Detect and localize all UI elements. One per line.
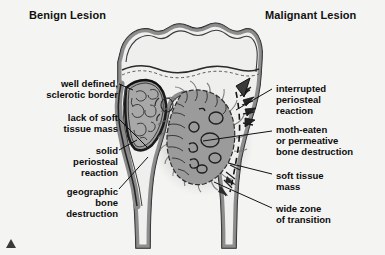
label-soft-tissue-mass: soft tissue mass bbox=[276, 170, 324, 192]
label-well-defined-sclerotic-border: well defined, sclerotic border bbox=[46, 78, 118, 100]
label-moth-eaten-bone-destruction: moth-eaten or permeative bone destructio… bbox=[276, 124, 353, 158]
label-solid-periosteal-reaction: solid periosteal reaction bbox=[73, 145, 118, 179]
label-geographic-bone-destruction: geographic bone destruction bbox=[66, 186, 118, 220]
label-wide-zone-of-transition: wide zone of transition bbox=[276, 203, 331, 225]
triangle-marker-icon bbox=[6, 239, 16, 248]
label-interrupted-periosteal-reaction: interrupted periosteal reaction bbox=[276, 83, 326, 117]
heading-benign-lesion: Benign Lesion bbox=[29, 9, 106, 21]
heading-malignant-lesion: Malignant Lesion bbox=[265, 9, 356, 21]
figure-bone-lesion-comparison: Benign Lesion Malignant Lesion well defi… bbox=[0, 0, 385, 255]
label-lack-of-soft-tissue-mass: lack of soft tissue mass bbox=[64, 112, 118, 134]
